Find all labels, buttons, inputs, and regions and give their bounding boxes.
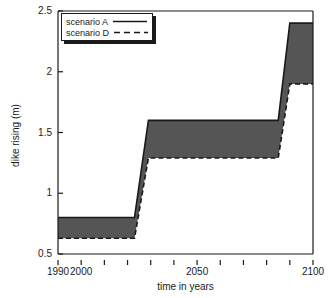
y-tick-label: 2.5 [0,6,52,16]
legend-item-scenario-d: scenario D [66,27,148,38]
y-tick-label: 0.5 [0,249,52,259]
x-tick-label: 2000 [61,267,101,277]
y-tick-label: 1.5 [0,128,52,138]
x-tick-label: 2050 [177,267,217,277]
y-axis-title: dike rising (m) [10,81,21,191]
chart-figure: 0.511.522.5 1990200020502100 dike rising… [0,0,332,298]
scenario-band-fill [58,23,313,238]
scenario-a-line [58,23,313,217]
x-axis-title: time in years [58,281,313,292]
legend-item-scenario-a: scenario A [66,16,148,27]
x-tick-marks [58,260,313,265]
x-tick-label: 2100 [293,267,332,277]
scenario-d-line [58,84,313,238]
legend-label-scenario-a: scenario A [66,17,108,27]
y-tick-label: 2 [0,67,52,77]
legend-line-dashed-icon [114,28,148,37]
legend-line-solid-icon [113,17,147,26]
y-tick-label: 1 [0,188,52,198]
chart-legend: scenario A scenario D [61,13,153,41]
legend-label-scenario-d: scenario D [66,28,109,38]
